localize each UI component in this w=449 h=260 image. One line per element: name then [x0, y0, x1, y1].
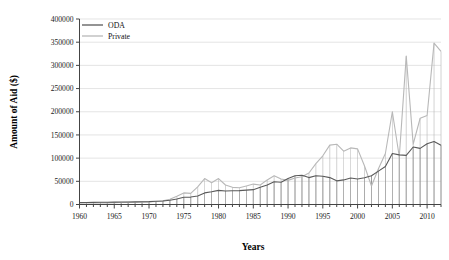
x-tick-label: 1980	[211, 212, 226, 221]
x-tick-label: 1990	[280, 212, 295, 221]
y-tick-label: 0	[70, 200, 74, 209]
y-tick-label: 150000	[51, 131, 74, 140]
legend-label-oda: ODA	[108, 21, 125, 30]
x-tick-label: 1995	[315, 212, 330, 221]
y-tick-label: 200000	[51, 107, 74, 116]
x-tick-label: 1970	[141, 212, 156, 221]
y-tick-label: 350000	[51, 38, 74, 47]
y-axis-title: Amount of Aid ($)	[9, 75, 20, 149]
y-tick-label: 400000	[51, 15, 74, 24]
x-tick-label: 2005	[385, 212, 400, 221]
x-axis-title: Years	[242, 242, 265, 252]
chart-container: 0500001000001500002000002500003000003500…	[0, 0, 449, 260]
x-tick-label: 2010	[420, 212, 435, 221]
aid-line-chart: 0500001000001500002000002500003000003500…	[0, 0, 449, 260]
y-tick-label: 300000	[51, 61, 74, 70]
legend-label-private: Private	[108, 32, 131, 41]
x-tick-label: 2000	[350, 212, 365, 221]
y-tick-label: 100000	[51, 154, 74, 163]
y-tick-label: 50000	[55, 177, 74, 186]
x-tick-label: 1985	[246, 212, 261, 221]
x-tick-label: 1975	[176, 212, 191, 221]
x-tick-label: 1965	[107, 212, 122, 221]
x-tick-label: 1960	[72, 212, 87, 221]
y-tick-label: 250000	[51, 84, 74, 93]
